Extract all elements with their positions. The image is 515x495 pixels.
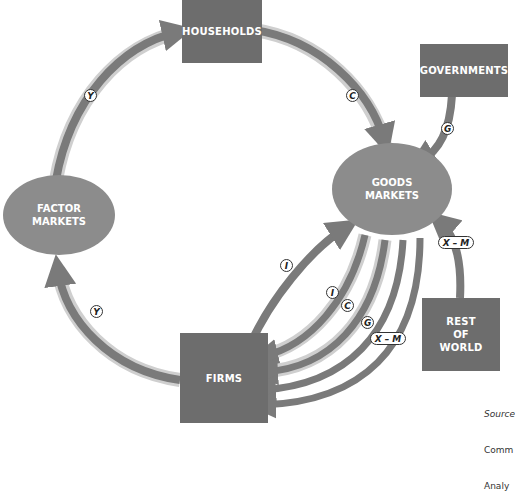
flow-label-xm-row: X – M <box>438 236 474 249</box>
flow-label-y-bottom: Y <box>90 305 103 318</box>
flow-label-xm-inner: X – M <box>370 332 406 345</box>
flow-label-y-top: Y <box>84 89 97 102</box>
flow-xm-row <box>440 222 460 298</box>
factor-markets-node: FACTORMARKETS <box>3 175 115 255</box>
rest-of-world-node: RESTOFWORLD <box>422 298 500 371</box>
flow-y-to-households <box>56 32 178 180</box>
households-node: HOUSEHOLDS <box>182 0 262 63</box>
flow-label-i-inner: I <box>326 286 339 299</box>
source-note: Source Comm Analy <box>484 384 515 495</box>
flow-label-c-top: C <box>346 89 359 102</box>
governments-node: GOVERNMENTS <box>420 44 508 97</box>
goods-markets-node: GOODSMARKETS <box>332 143 452 235</box>
flow-c-to-goods <box>254 30 384 140</box>
flow-label-i-outer: I <box>280 259 293 272</box>
flow-label-c-inner: C <box>341 299 354 312</box>
firms-node: FIRMS <box>180 333 268 423</box>
